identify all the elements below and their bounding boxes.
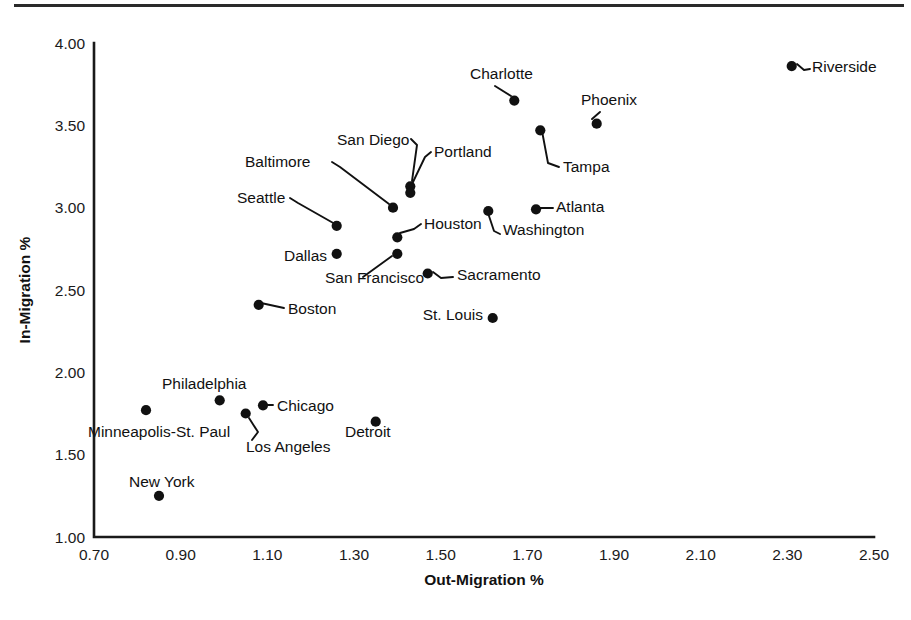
x-axis-tick-labels: 0.700.901.101.301.501.701.902.102.302.50 <box>79 546 890 563</box>
city-label-tampa: Tampa <box>563 158 610 175</box>
y-tick-label: 3.50 <box>55 117 86 134</box>
data-point: Phoenix (1.86, 3.51) <box>592 119 602 129</box>
data-point: Los Angeles (1.05, 1.75) <box>241 408 251 418</box>
figure-container: 0.700.901.101.301.501.701.902.102.302.50… <box>0 0 911 620</box>
city-label-riverside: Riverside <box>812 58 877 75</box>
data-point: Philadelphia (0.99, 1.83) <box>215 395 225 405</box>
y-tick-label: 2.50 <box>55 282 86 299</box>
leader-line-riverside <box>797 64 810 70</box>
x-tick-label: 0.70 <box>79 546 110 563</box>
city-label-boston: Boston <box>288 300 336 317</box>
scatter-plot: 0.700.901.101.301.501.701.902.102.302.50… <box>0 0 911 620</box>
x-tick-label: 1.30 <box>339 546 370 563</box>
leader-line-boston <box>261 303 284 308</box>
city-label-sacramento: Sacramento <box>457 266 541 283</box>
data-point: Chicago (1.09, 1.80) <box>258 400 268 410</box>
city-label-washington: Washington <box>503 221 584 238</box>
city-label-phoenix: Phoenix <box>581 91 637 108</box>
city-label-san-francisco: San Francisco <box>325 269 424 286</box>
y-tick-label: 2.00 <box>55 364 86 381</box>
leader-line-washington <box>488 213 500 234</box>
city-label-detroit: Detroit <box>345 423 391 440</box>
data-point: Dallas (1.26, 2.72) <box>332 249 342 259</box>
data-point: Baltimore (1.39, 3.00) <box>388 203 398 213</box>
data-point: Tampa (1.73, 3.47) <box>535 125 545 135</box>
data-point: Houston (1.40, 2.82) <box>392 232 402 242</box>
y-axis-tick-labels: 1.001.502.002.503.003.504.00 <box>55 35 86 546</box>
city-label-st-louis: St. Louis <box>423 306 484 323</box>
city-label-seattle: Seattle <box>237 189 285 206</box>
data-point: Charlotte (1.67, 3.65) <box>509 96 519 106</box>
x-tick-label: 1.90 <box>599 546 630 563</box>
data-point: Riverside (2.31, 3.86) <box>787 61 797 71</box>
leader-line-baltimore <box>332 162 389 204</box>
city-label-minneapolis-st-paul: Minneapolis-St. Paul <box>88 423 230 440</box>
data-point: New York (0.85, 1.25) <box>154 491 164 501</box>
leader-line-phoenix <box>592 112 600 119</box>
city-label-dallas: Dallas <box>284 247 327 264</box>
city-label-los-angeles: Los Angeles <box>246 438 331 455</box>
data-point: San Francisco (1.40, 2.72) <box>392 249 402 259</box>
data-point: Portland (1.43, 3.09) <box>405 188 415 198</box>
y-tick-label: 1.00 <box>55 529 86 546</box>
x-axis-title: Out-Migration % <box>424 571 544 588</box>
y-tick-label: 1.50 <box>55 446 86 463</box>
y-tick-label: 3.00 <box>55 199 86 216</box>
data-point: Seattle (1.26, 2.89) <box>332 221 342 231</box>
leader-line-houston <box>400 224 421 233</box>
x-tick-label: 1.10 <box>252 546 283 563</box>
x-tick-label: 1.50 <box>426 546 457 563</box>
city-label-baltimore: Baltimore <box>245 153 310 170</box>
y-axis-title: In-Migration % <box>16 236 33 343</box>
city-label-philadelphia: Philadelphia <box>162 375 247 392</box>
city-label-san-diego: San Diego <box>337 131 409 148</box>
x-tick-label: 2.30 <box>772 546 803 563</box>
data-point-labels: RiversideCharlottePhoenixTampaSan DiegoP… <box>88 58 877 490</box>
x-tick-label: 2.50 <box>859 546 890 563</box>
city-label-new-york: New York <box>129 473 195 490</box>
x-tick-label: 0.90 <box>166 546 197 563</box>
x-tick-label: 1.70 <box>512 546 543 563</box>
data-point: Boston (1.08, 2.41) <box>254 300 264 310</box>
data-point: St. Louis (1.62, 2.33) <box>488 313 498 323</box>
data-point: Sacramento (1.47, 2.60) <box>423 268 433 278</box>
data-point: Washington (1.61, 2.98) <box>483 206 493 216</box>
city-label-chicago: Chicago <box>277 397 334 414</box>
data-point: Atlanta (1.72, 2.99) <box>531 204 541 214</box>
x-tick-label: 2.10 <box>686 546 717 563</box>
city-label-atlanta: Atlanta <box>556 198 605 215</box>
city-label-houston: Houston <box>424 215 482 232</box>
leader-line-los-angeles <box>249 418 258 440</box>
axis-lines <box>94 43 874 537</box>
city-label-charlotte: Charlotte <box>470 65 533 82</box>
leader-line-seattle <box>290 198 335 224</box>
leader-line-charlotte <box>495 86 511 96</box>
leader-line-sacramento <box>433 272 453 278</box>
data-point: Minneapolis-St. Paul (0.82, 1.77) <box>141 405 151 415</box>
leader-line-tampa <box>542 131 559 167</box>
city-label-portland: Portland <box>434 143 492 160</box>
y-tick-label: 4.00 <box>55 35 86 52</box>
